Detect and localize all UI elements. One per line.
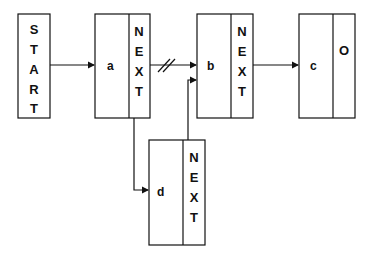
svg-text:T: T [30,42,38,57]
node-c-box [299,14,355,118]
svg-text:R: R [29,82,39,97]
svg-text:S: S [30,22,39,37]
arrow-a-to-d [134,118,148,190]
svg-text:N: N [237,24,246,39]
svg-text:E: E [190,170,199,185]
diagram-svg: S T A R T a N E X T b N E X T c O d N E … [0,0,371,256]
svg-text:X: X [190,190,199,205]
svg-text:E: E [135,44,144,59]
node-c-data: c [310,59,317,73]
node-c-null-pointer: O [339,43,349,58]
svg-text:X: X [135,64,144,79]
node-b-data: b [207,59,214,73]
svg-text:N: N [134,24,143,39]
svg-text:N: N [189,150,198,165]
svg-text:T: T [190,210,198,225]
svg-text:T: T [135,84,143,99]
node-d-next-label: N E X T [189,150,198,225]
svg-text:X: X [238,64,247,79]
arrow-d-to-b [188,80,196,140]
node-b-next-label: N E X T [237,24,246,99]
svg-text:T: T [238,84,246,99]
node-a-data: a [107,59,114,73]
svg-text:A: A [29,62,39,77]
node-d-data: d [157,185,164,199]
linked-list-diagram: S T A R T a N E X T b N E X T c O d N E … [0,0,371,256]
node-a-next-label: N E X T [134,24,143,99]
start-label: S T A R T [29,22,39,116]
svg-text:E: E [238,44,247,59]
svg-text:T: T [30,101,38,116]
